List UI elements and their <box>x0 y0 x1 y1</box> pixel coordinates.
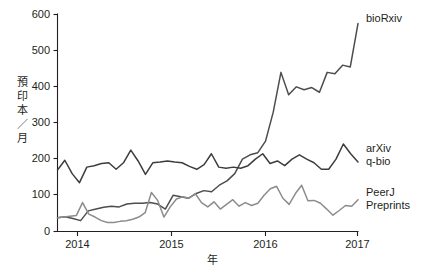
x-tick-label-2016: 2016 <box>253 238 277 250</box>
chart-canvas: 600 500 400 300 200 100 0 2014 2015 2016… <box>0 0 421 268</box>
series-label-peerj-line1: PeerJ <box>366 186 395 198</box>
y-axis-title-char-1: 印 <box>17 90 28 102</box>
x-tick-label-2017: 2017 <box>345 238 369 250</box>
y-tick-label-500: 500 <box>32 44 50 56</box>
series-label-arxiv-line2: q-bio <box>366 155 390 167</box>
y-tick-label-100: 100 <box>32 188 50 200</box>
series-lines <box>58 24 359 223</box>
preprints-per-month-line-chart: 600 500 400 300 200 100 0 2014 2015 2016… <box>0 0 421 268</box>
x-axis-tick-labels: 2014 2015 2016 2017 <box>65 238 369 250</box>
y-axis-title-char-4: 月 <box>17 132 28 144</box>
y-tick-label-300: 300 <box>32 116 50 128</box>
y-tick-label-200: 200 <box>32 152 50 164</box>
series-labels: bioRxiv arXiv q-bio PeerJ Preprints <box>366 12 411 211</box>
y-tick-label-600: 600 <box>32 8 50 20</box>
y-tick-label-0: 0 <box>44 225 50 237</box>
y-axis-title-char-2: 本 <box>17 103 28 116</box>
series-label-peerj-line2: Preprints <box>366 199 411 211</box>
y-axis-title-char-3: ／ <box>17 118 28 130</box>
x-axis-title: 年 <box>207 253 218 266</box>
series-line-biorxiv <box>58 24 359 221</box>
x-tick-label-2015: 2015 <box>159 238 183 250</box>
series-label-biorxiv: bioRxiv <box>366 12 403 24</box>
series-line-arxiv-qbio <box>58 144 359 183</box>
y-tick-label-400: 400 <box>32 80 50 92</box>
y-axis-title-char-0: 預 <box>17 76 28 88</box>
x-axis-ticks <box>78 232 358 237</box>
x-tick-label-2014: 2014 <box>65 238 89 250</box>
series-label-arxiv-line1: arXiv <box>366 142 392 154</box>
y-axis-title: 預 印 本 ／ 月 <box>17 76 28 144</box>
y-axis-ticks <box>54 15 58 232</box>
y-axis-tick-labels: 600 500 400 300 200 100 0 <box>32 8 50 237</box>
